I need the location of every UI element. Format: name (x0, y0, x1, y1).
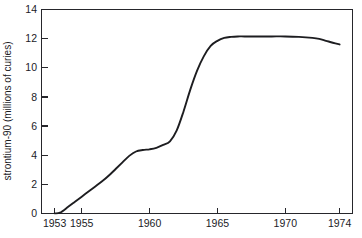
x-tick-label-1965: 1965 (206, 217, 230, 229)
y-tick-label-6: 6 (31, 120, 37, 132)
y-tick-label-10: 10 (25, 61, 37, 73)
x-tick-label-1953: 1953 (43, 217, 67, 229)
strontium-90-series-line (55, 36, 340, 213)
axis-frame-path (42, 10, 353, 214)
x-tick-label-1974: 1974 (328, 217, 352, 229)
x-tick-label-1955: 1955 (70, 217, 94, 229)
x-axis-ticks: 1953 1955 1960 1965 1970 1974 (43, 208, 352, 230)
plot-frame (42, 10, 353, 214)
y-tick-label-4: 4 (31, 149, 37, 161)
chart-figure: 14 12 10 8 6 4 2 0 1953 1955 1960 (0, 0, 362, 238)
y-tick-label-12: 12 (25, 32, 37, 44)
y-tick-label-0: 0 (31, 207, 37, 219)
x-tick-label-1970: 1970 (274, 217, 298, 229)
y-tick-label-14: 14 (25, 3, 37, 15)
strontium-90-line-chart: 14 12 10 8 6 4 2 0 1953 1955 1960 (0, 0, 362, 238)
y-axis-title: strontium-90 (millions of curies) (2, 42, 13, 181)
y-tick-label-2: 2 (31, 178, 37, 190)
y-tick-label-8: 8 (31, 91, 37, 103)
y-axis-ticks: 14 12 10 8 6 4 2 0 (25, 3, 47, 219)
x-tick-label-1960: 1960 (138, 217, 162, 229)
